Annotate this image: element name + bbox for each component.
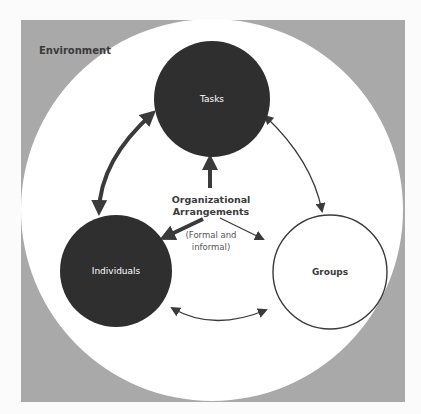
individuals-label: Individuals xyxy=(92,266,141,276)
arrangements-sub-line2: informal) xyxy=(192,242,230,252)
congruence-model-diagram: Environment Tasks Individuals Groups Org… xyxy=(0,0,421,414)
environment-label: Environment xyxy=(39,45,111,56)
tasks-label: Tasks xyxy=(199,94,224,104)
arrangements-sub-line1: (Formal and xyxy=(186,230,237,240)
arrangements-label-line1: Organizational xyxy=(172,194,251,205)
arrangements-label-line2: Arrangements xyxy=(173,206,250,217)
groups-label: Groups xyxy=(312,267,348,277)
